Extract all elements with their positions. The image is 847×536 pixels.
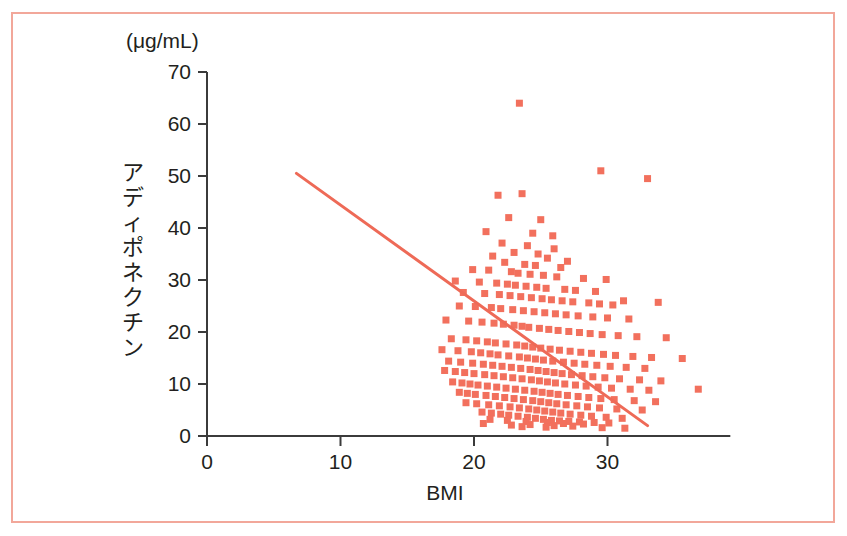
scatter-point xyxy=(456,303,463,310)
scatter-point xyxy=(652,398,659,405)
scatter-point xyxy=(445,358,452,365)
regression-trendline xyxy=(296,173,647,425)
scatter-point xyxy=(480,420,487,427)
y-axis-tick-label: 40 xyxy=(168,216,191,239)
scatter-point xyxy=(592,288,599,295)
figure-root: 0102030405060700102030 (μg/mL) BMI アディポネ… xyxy=(0,0,847,536)
scatter-point xyxy=(438,346,445,353)
scatter-point xyxy=(561,286,568,293)
scatter-point xyxy=(537,216,544,223)
scatter-point xyxy=(679,355,686,362)
scatter-point xyxy=(495,351,502,358)
scatter-point xyxy=(496,402,503,409)
scatter-point xyxy=(636,376,643,383)
scatter-point xyxy=(469,360,476,367)
scatter-point xyxy=(565,328,572,335)
scatter-point xyxy=(645,387,652,394)
scatter-point xyxy=(508,364,515,371)
scatter-point xyxy=(529,397,536,404)
scatter-point xyxy=(504,281,511,288)
scatter-point xyxy=(569,298,576,305)
scatter-point xyxy=(532,415,539,422)
scatter-point xyxy=(695,386,702,393)
scatter-point xyxy=(544,255,551,262)
scatter-point xyxy=(481,290,488,297)
scatter-point xyxy=(599,424,606,431)
scatter-point xyxy=(600,351,607,358)
trendline-segment xyxy=(296,173,647,425)
scatter-point xyxy=(509,374,516,381)
scatter-point xyxy=(627,386,634,393)
y-axis-tick-label: 50 xyxy=(168,164,191,187)
scatter-point xyxy=(493,280,500,287)
scatter-point xyxy=(551,369,558,376)
scatter-point xyxy=(547,390,554,397)
scatter-point xyxy=(508,268,515,275)
y-axis-title-char: ポ xyxy=(119,235,147,260)
scatter-point xyxy=(575,312,582,319)
scatter-point xyxy=(605,420,612,427)
scatter-point xyxy=(544,378,551,385)
scatter-point xyxy=(500,373,507,380)
scatter-point xyxy=(476,279,483,286)
scatter-point xyxy=(545,326,552,333)
scatter-point xyxy=(516,404,523,411)
scatter-point xyxy=(539,389,546,396)
scatter-point xyxy=(572,287,579,294)
scatter-point xyxy=(524,355,531,362)
scatter-point xyxy=(513,342,520,349)
scatter-point xyxy=(531,388,538,395)
scatter-point xyxy=(608,385,615,392)
x-axis-tick-label: 10 xyxy=(329,450,352,473)
scatter-point xyxy=(589,373,596,380)
scatter-point xyxy=(625,316,632,323)
scatter-point xyxy=(475,382,482,389)
scatter-point xyxy=(519,323,526,330)
scatter-point xyxy=(587,330,594,337)
scatter-point xyxy=(465,318,472,325)
scatter-point xyxy=(563,311,570,318)
scatter-point xyxy=(499,363,506,370)
scatter-point xyxy=(559,297,566,304)
scatter-point xyxy=(644,175,651,182)
scatter-point xyxy=(499,240,506,247)
scatter-point xyxy=(552,310,559,317)
scatter-point xyxy=(517,293,524,300)
scatter-point xyxy=(563,401,570,408)
scatter-point xyxy=(441,367,448,374)
scatter-point xyxy=(462,399,469,406)
scatter-point xyxy=(585,299,592,306)
scatter-point xyxy=(580,421,587,428)
scatter-point xyxy=(548,296,555,303)
scatter-point xyxy=(489,253,496,260)
scatter-point xyxy=(543,424,550,431)
scatter-point xyxy=(501,259,508,266)
scatter-point xyxy=(484,338,491,345)
scatter-point xyxy=(452,368,459,375)
x-axis-tick-label: 0 xyxy=(201,450,213,473)
scatter-point xyxy=(535,251,542,258)
scatter-point xyxy=(468,348,475,355)
y-axis-title-char: チ xyxy=(119,310,147,335)
scatter-point xyxy=(532,356,539,363)
scatter-point xyxy=(621,425,628,432)
scatter-point xyxy=(509,306,516,313)
scatter-point xyxy=(648,354,655,361)
scatter-point xyxy=(461,369,468,376)
scatter-point xyxy=(529,230,536,237)
scatter-point xyxy=(505,214,512,221)
scatter-point xyxy=(525,405,532,412)
scatter-point xyxy=(480,361,487,368)
scatter-point xyxy=(520,307,527,314)
scatter-point xyxy=(515,270,522,277)
scatter-point xyxy=(517,365,524,372)
scatter-point xyxy=(442,317,449,324)
scatter-point xyxy=(585,394,592,401)
scatter-point xyxy=(493,384,500,391)
scatter-point xyxy=(473,337,480,344)
scatter-point xyxy=(523,283,530,290)
scatter-point xyxy=(601,374,608,381)
scatter-point xyxy=(591,419,598,426)
scatter-point xyxy=(497,411,504,418)
scatter-point xyxy=(487,350,494,357)
